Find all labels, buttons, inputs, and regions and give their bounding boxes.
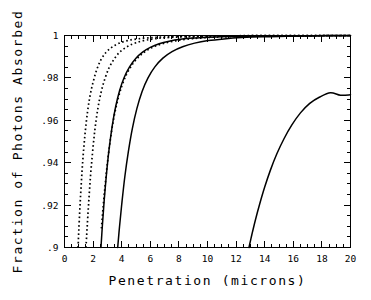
chart-figure: 02468101214161820 .9.92.94.96.981 Penetr…: [0, 0, 371, 300]
series-curve-1: [78, 35, 350, 247]
x-tick-label: 6: [147, 253, 153, 264]
x-tick-label: 12: [230, 253, 241, 264]
y-tick-label: .9: [47, 242, 59, 253]
y-tick-label: .96: [41, 115, 58, 126]
x-tick-label: 14: [259, 253, 271, 264]
x-tick-label: 0: [62, 253, 68, 264]
curve-series: [78, 35, 350, 247]
series-curve-3: [101, 36, 351, 248]
x-tick-label: 20: [345, 253, 357, 264]
y-tick-label: .98: [41, 72, 58, 83]
y-tick-labels: .9.92.94.96.981: [41, 30, 58, 253]
plot-frame: [65, 36, 351, 248]
x-tick-label: 18: [316, 253, 328, 264]
absorption-plot: 02468101214161820 .9.92.94.96.981 Penetr…: [0, 0, 371, 300]
x-tick-label: 10: [202, 253, 214, 264]
x-tick-label: 2: [90, 253, 96, 264]
x-axis-title: Penetration (microns): [109, 273, 307, 288]
y-tick-label: 1: [53, 30, 59, 41]
axis-ticks: [65, 36, 351, 248]
series-curve-5: [118, 36, 351, 248]
x-tick-labels: 02468101214161820: [62, 253, 357, 264]
x-tick-label: 4: [119, 253, 125, 264]
series-curve-4: [101, 36, 350, 229]
series-curve-2: [86, 35, 351, 247]
y-axis-title: Fraction of Photons Absorbed: [10, 10, 25, 274]
x-tick-label: 8: [176, 253, 182, 264]
series-curve-6: [249, 93, 351, 248]
y-tick-label: .92: [41, 200, 58, 211]
y-tick-label: .94: [41, 157, 58, 168]
x-tick-label: 16: [288, 253, 300, 264]
